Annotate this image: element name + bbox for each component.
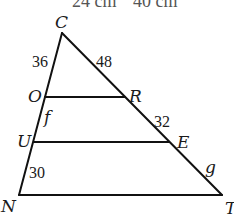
- header-left-measure: 24 cm: [72, 0, 117, 11]
- measure-UN: 30: [29, 164, 45, 181]
- label-E: E: [176, 132, 190, 152]
- label-O: O: [28, 86, 42, 106]
- label-R: R: [128, 86, 142, 106]
- side-CT: [62, 33, 222, 195]
- label-U: U: [17, 131, 32, 151]
- measure-OU: f: [42, 107, 53, 127]
- label-N: N: [0, 196, 17, 216]
- measure-RE: 32: [154, 113, 170, 130]
- header-right-measure: 40 cm: [133, 0, 178, 11]
- label-T: T: [225, 198, 234, 217]
- measure-CR: 48: [96, 53, 112, 70]
- triangle-diagram: 24 cm 40 cm C O R U E N T 36 48 f 32 30 …: [0, 0, 234, 217]
- label-C: C: [55, 12, 68, 32]
- measure-CO: 36: [32, 53, 48, 70]
- measure-ET: g: [205, 157, 216, 177]
